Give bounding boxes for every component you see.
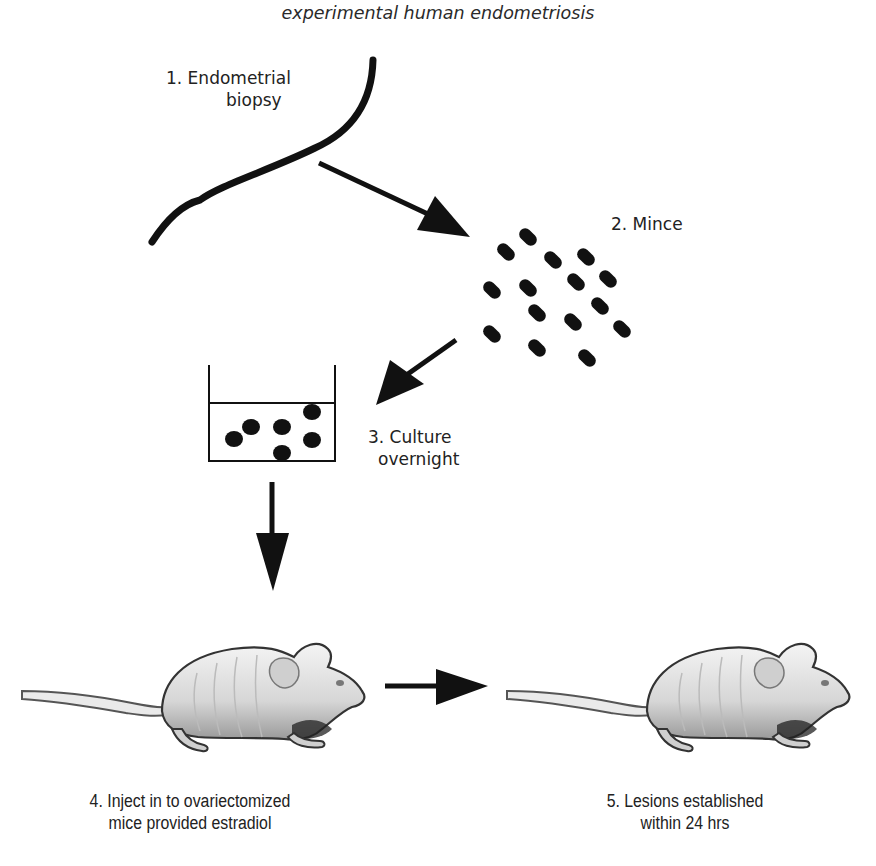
step-3-line-1: 3. Culture bbox=[368, 426, 459, 448]
nude-mouse-icon-injected bbox=[22, 644, 364, 751]
step-5-line-1: 5. Lesions established bbox=[575, 790, 795, 812]
step-4-label: 4. Inject in to ovariectomized mice prov… bbox=[40, 790, 339, 834]
step-1-label: 1. Endometrial biopsy bbox=[166, 67, 291, 111]
nude-mouse-icon-lesions bbox=[507, 644, 849, 751]
step-5-line-2: within 24 hrs bbox=[575, 812, 795, 834]
step-2-label: 2. Mince bbox=[611, 213, 683, 235]
step-3-label: 3. Culture overnight bbox=[368, 426, 459, 470]
arrow-inject-to-lesions bbox=[385, 669, 488, 705]
step-1-line-2: biopsy bbox=[166, 89, 291, 111]
arrow-culture-to-mouse bbox=[256, 482, 289, 591]
culture-dish-icon bbox=[209, 365, 335, 461]
step-4-line-2: mice provided estradiol bbox=[40, 812, 339, 834]
arrow-biopsy-to-mince bbox=[319, 163, 470, 237]
step-5-label: 5. Lesions established within 24 hrs bbox=[575, 790, 795, 834]
tissue-fragments-icon bbox=[481, 226, 634, 370]
arrow-mince-to-culture bbox=[376, 340, 456, 405]
step-4-line-1: 4. Inject in to ovariectomized bbox=[40, 790, 339, 812]
step-1-line-1: 1. Endometrial bbox=[166, 67, 291, 89]
step-3-line-2: overnight bbox=[368, 448, 459, 470]
step-2-line-1: 2. Mince bbox=[611, 213, 683, 235]
